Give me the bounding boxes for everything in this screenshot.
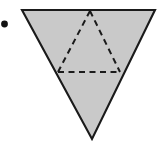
- tetrahedron-diagram: [0, 0, 160, 156]
- figure-container: Shaded inverted triangle representing a …: [0, 0, 160, 156]
- list-bullet-icon: [1, 21, 8, 28]
